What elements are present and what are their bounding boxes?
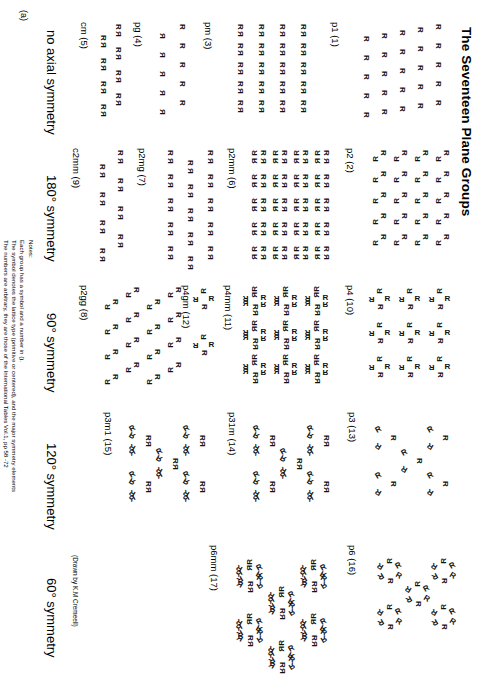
motif-glyph: R <box>166 367 174 373</box>
motif-glyph: R <box>305 430 314 440</box>
motif-glyph: R <box>447 617 456 627</box>
motif-glyph: R <box>393 617 402 627</box>
motif-glyph: R <box>267 441 275 447</box>
motif-glyph: R <box>375 372 383 378</box>
motif-glyph: R <box>313 254 321 260</box>
column-header-180: 180° symmetry <box>43 175 58 262</box>
motif-glyph: R <box>256 69 264 75</box>
motif-glyph: R <box>192 295 198 303</box>
motif-glyph: R <box>256 100 264 106</box>
motif-glyph: R <box>256 43 264 49</box>
motif-glyph: R <box>281 326 289 332</box>
motif-glyph: R <box>313 158 321 164</box>
motif-glyph: R <box>321 487 329 493</box>
motif-glyph: R <box>397 68 405 74</box>
motif-glyph: R <box>251 448 260 458</box>
motif-glyph: R <box>384 329 390 337</box>
motif-glyph: R <box>97 256 105 262</box>
pattern-p1: RRRRRRRRRRRRRRRRRRRRRRRRR <box>348 22 443 122</box>
motif-glyph: R <box>321 206 329 212</box>
motif-glyph: R <box>415 84 423 90</box>
motif-glyph: R <box>205 230 213 236</box>
motif-glyph: R <box>185 240 193 246</box>
motif-glyph: R <box>312 360 320 366</box>
motif-glyph: R <box>281 292 289 298</box>
motif-glyph: R <box>250 354 258 360</box>
motif-glyph: R <box>312 378 320 384</box>
group-label-p6: p6 (16) <box>346 545 357 575</box>
motif-glyph: R <box>281 310 289 316</box>
motif-glyph: R <box>291 334 297 342</box>
motif-glyph: R <box>177 43 185 49</box>
motif-glyph: R <box>405 356 413 362</box>
motif-glyph: R <box>277 31 285 37</box>
motif-glyph: R <box>392 240 400 246</box>
motif-glyph: R <box>277 69 285 75</box>
motif-glyph: R <box>245 559 253 565</box>
motif-glyph: R <box>413 219 421 225</box>
motif-glyph: R <box>181 430 190 440</box>
motif-glyph: R <box>258 206 266 212</box>
motif-glyph: R <box>385 558 393 564</box>
motif-glyph: R <box>371 177 379 183</box>
motif-glyph: R <box>154 453 163 463</box>
pattern-p2gg: RRRRRRRRRRRRRRRRRRRRRRRRRRRRRRRR <box>95 285 183 385</box>
group-label-p4mm: p4mm (11) <box>222 285 233 330</box>
motif-glyph: R <box>398 295 404 303</box>
motif-glyph: R <box>113 100 121 106</box>
motif-glyph: R <box>279 174 287 180</box>
motif-glyph: R <box>165 246 173 252</box>
motif-glyph: R <box>124 292 132 298</box>
motif-glyph: R <box>279 182 287 188</box>
motif-glyph: R <box>292 182 300 188</box>
motif-glyph: R <box>292 206 300 212</box>
figure-corner-label: (a) <box>18 10 28 21</box>
motif-glyph: R <box>415 103 423 109</box>
motif-glyph: R <box>298 81 306 87</box>
motif-glyph: R <box>375 304 383 310</box>
motif-glyph: R <box>258 174 266 180</box>
motif-glyph: R <box>205 182 213 188</box>
group-label-p2gg: p2gg (8) <box>78 285 89 320</box>
motif-glyph: R <box>439 624 447 630</box>
motif-glyph: R <box>312 310 320 316</box>
motif-glyph: R <box>258 246 266 252</box>
motif-glyph: R <box>277 592 285 598</box>
motif-glyph: R <box>177 24 185 30</box>
motif-glyph: R <box>433 43 441 49</box>
group-label-p31m: p31m (14) <box>226 412 237 455</box>
motif-glyph: R <box>435 288 443 294</box>
motif-glyph: R <box>271 222 279 228</box>
motif-glyph: R <box>279 150 287 156</box>
motif-glyph: R <box>127 448 136 458</box>
motif-glyph: R <box>256 81 264 87</box>
motif-glyph: R <box>98 65 106 71</box>
motif-glyph: R <box>379 109 387 115</box>
motif-glyph: R <box>277 614 285 620</box>
motif-glyph: R <box>300 182 308 188</box>
motif-glyph: R <box>398 363 404 371</box>
motif-glyph: R <box>371 240 379 246</box>
motif-glyph: R <box>250 230 258 236</box>
group-label-pm: pm (3) <box>202 22 213 49</box>
pattern-p4gm: RRRRRRRR <box>190 285 215 385</box>
motif-glyph: R <box>313 222 321 228</box>
motif-glyph: R <box>281 320 289 326</box>
motif-glyph: R <box>115 214 123 220</box>
pattern-c2mm: RRRRRRRRRRRRRRRR <box>85 148 125 273</box>
motif-glyph: R <box>251 494 260 504</box>
motif-glyph: R <box>309 559 317 565</box>
motif-glyph: R <box>413 198 421 204</box>
motif-glyph: R <box>421 594 430 604</box>
page-title: The Seventeen Plane Groups <box>458 27 473 216</box>
motif-glyph: R <box>321 254 329 260</box>
motif-glyph: R <box>98 58 106 64</box>
motif-glyph: R <box>300 174 308 180</box>
motif-glyph: R <box>434 156 442 162</box>
motif-glyph: R <box>298 24 306 30</box>
motif-glyph: R <box>205 158 213 164</box>
motif-glyph: R <box>292 246 300 252</box>
pattern-p2mg: RRRRRRRRRRRRRRRRRRRRRRRRRRRRRR <box>153 148 215 273</box>
motif-glyph: R <box>273 300 279 308</box>
motif-glyph: R <box>430 607 439 617</box>
